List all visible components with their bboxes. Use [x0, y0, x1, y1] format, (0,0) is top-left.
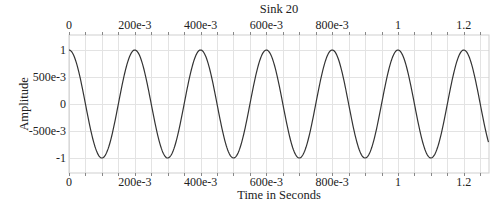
- y-tick-label: 0: [60, 97, 66, 111]
- x-tick-label: 1.2: [456, 18, 471, 32]
- x-tick-label: 1.2: [456, 175, 471, 189]
- x-tick-label: 400e-3: [184, 18, 217, 32]
- x-tick-label: 800e-3: [316, 18, 349, 32]
- x-tick-label: 200e-3: [118, 175, 151, 189]
- top-x-axis-tick-labels: 0200e-3400e-3600e-3800e-311.2: [66, 18, 471, 32]
- x-tick-label: 800e-3: [316, 175, 349, 189]
- x-tick-label: 200e-3: [118, 18, 151, 32]
- y-axis-title: Amplitude: [17, 77, 31, 131]
- y-tick-label: 1: [60, 43, 66, 57]
- x-tick-label: 400e-3: [184, 175, 217, 189]
- bottom-x-axis-tick-labels: 0200e-3400e-3600e-3800e-311.2: [66, 175, 471, 189]
- x-tick-label: 0: [66, 175, 72, 189]
- x-tick-label: 600e-3: [250, 18, 283, 32]
- x-tick-label: 600e-3: [250, 175, 283, 189]
- y-tick-label: -500e-3: [29, 124, 66, 138]
- chart-title: Sink 20: [260, 2, 299, 16]
- x-axis-title: Time in Seconds: [237, 188, 321, 202]
- x-tick-label: 0: [66, 18, 72, 32]
- y-axis-tick-labels: 1500e-30-500e-3-1: [29, 43, 66, 165]
- chart: 1500e-30-500e-3-1 0200e-3400e-3600e-3800…: [0, 0, 503, 214]
- x-tick-label: 1: [395, 18, 401, 32]
- y-tick-label: 500e-3: [33, 70, 66, 84]
- x-tick-label: 1: [395, 175, 401, 189]
- y-tick-label: -1: [56, 151, 66, 165]
